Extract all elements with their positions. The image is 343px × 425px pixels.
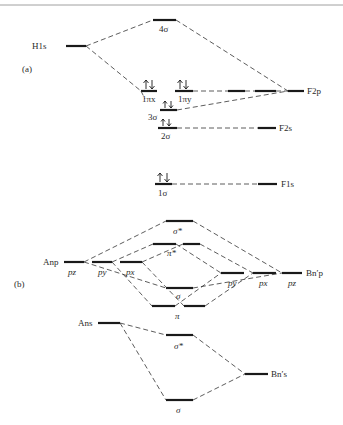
sigma-star-p-label: σ* [173,226,182,236]
pi-star-label: π* [167,248,177,258]
left-py-label: py [97,267,107,277]
electron-pair-icon [178,80,189,89]
electron-pair-icon [163,101,173,108]
electron-pair-icon [161,119,171,126]
mo-diagram: (a) H1s 4σ 1πx 1πy F2p 3σ 2σ F2s [0,0,343,425]
electron-pair-icon [158,173,170,182]
bnp-label: Bn′p [306,268,323,278]
2sigma-label: 2σ [161,131,171,141]
right-px-label: px [258,278,268,288]
electron-pair-icon [144,80,155,89]
f1s-label: F1s [281,179,295,189]
anp-label: Anp [43,257,59,267]
bns-label: Bn′s [271,369,287,379]
right-py-label: py [227,278,237,288]
4sigma-label: 4σ [159,24,169,34]
sigma-p-label: σ [176,291,181,301]
f2p-label: F2p [307,86,322,96]
left-pz-label: pz [67,267,77,277]
sigma-s-label: σ [176,405,181,415]
h1s-label: H1s [32,41,47,51]
right-pz-label: pz [287,278,297,288]
1piy-label: 1πy [178,94,192,104]
ans-label: Ans [78,318,93,328]
3sigma-label: 3σ [148,112,158,122]
pi-label: π [175,311,180,321]
sigma-star-s-label: σ* [174,341,183,351]
correlation-lines-b-p [84,221,282,306]
1sigma-label: 1σ [158,188,168,198]
1pix-label: 1πx [142,94,156,104]
part-a-label: (a) [22,64,32,74]
part-b-label: (b) [14,279,25,289]
f2s-label: F2s [279,123,293,133]
